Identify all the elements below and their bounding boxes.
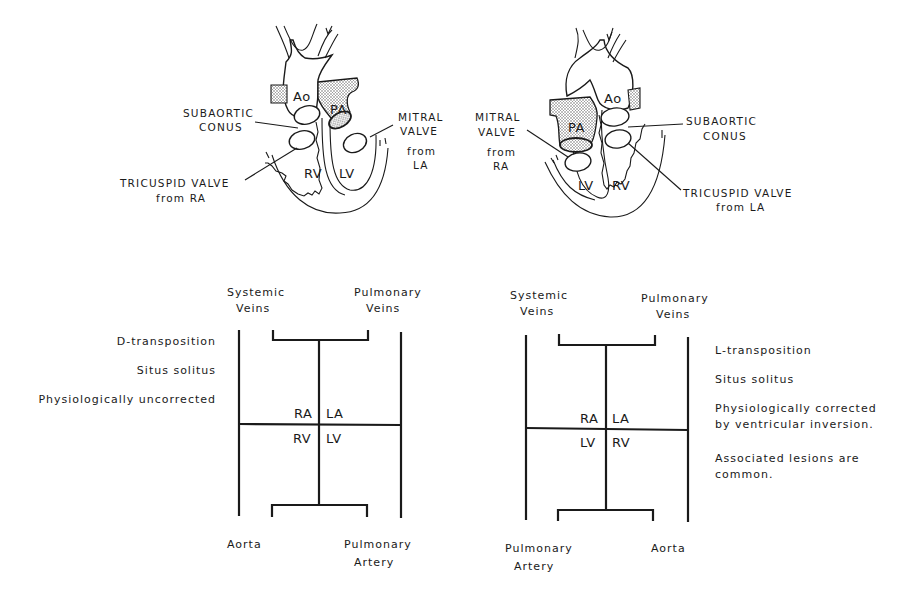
left-subaortic-label: SUBAORTIC [183,107,254,119]
right-pulmonary-artery-label: Pulmonary [505,542,573,555]
right-rv-label: RV [612,178,630,193]
left-mitral-label: MITRAL [398,111,444,123]
left-pulmonary-label: Pulmonary [354,286,422,299]
right-rv-label: RV [612,435,630,450]
left-lv-label: LV [339,166,355,181]
right-subaortic-label: SUBAORTIC [686,115,757,127]
left-from-ra-label: from RA [156,192,206,204]
left-la-label: LA [413,159,429,171]
left-ao-label: Ao [293,89,311,104]
right-la-label: LA [612,411,629,426]
right-pulmonary-label: Pulmonary [641,292,709,305]
left-tricuspid-label: TRICUSPID VALVE [119,177,230,189]
left-la-label: LA [326,406,343,421]
right-note-lesions: Associated lesions are [715,452,859,465]
right-aorta-label: Aorta [651,542,686,555]
right-note-common: common. [715,468,773,481]
left-valve-label: VALVE [400,125,438,137]
right-valve-label: VALVE [478,126,516,138]
left-aorta-label: Aorta [227,538,262,551]
left-conus-label: CONUS [199,121,243,133]
right-ao-label: Ao [604,91,622,106]
right-lv-label: LV [580,435,596,450]
left-ra-label: RA [294,406,312,421]
right-note-situs: Situs solitus [715,373,794,386]
left-systemic-veins-label: Veins [236,302,270,315]
right-pa-label: PA [568,120,585,135]
right-ra-label: RA [580,411,598,426]
right-note-transposition: L-transposition [715,344,812,357]
right-note-inversion: by ventricular inversion. [715,418,874,431]
right-pulmonary-veins-label: Veins [656,308,690,321]
right-heart-drawing: Ao PA LV RV SUBAORTIC CONUS MITRAL VALVE… [475,28,793,217]
left-from-label: from [407,145,436,157]
left-rv-label: RV [293,431,311,446]
left-artery-label: Artery [354,556,394,569]
right-systemic-label: Systemic [510,289,568,302]
right-from-la-label: from LA [716,201,765,213]
left-heart-drawing: Ao PA RV LV SUBAORTIC CONUS MITRAL VALVE… [119,24,444,213]
left-lv-label: LV [326,431,342,446]
right-from-label: from [487,146,516,158]
right-tricuspid-label: TRICUSPID VALVE [682,187,793,199]
left-pulmonary-artery-label: Pulmonary [344,538,412,551]
left-note-transposition: D-transposition [117,335,216,348]
left-pulmonary-veins-label: Veins [366,302,400,315]
right-mitral-label: MITRAL [475,111,521,123]
left-systemic-label: Systemic [227,286,285,299]
left-note-physiology: Physiologically uncorrected [38,393,216,406]
left-note-situs: Situs solitus [137,364,216,377]
right-lv-label: LV [578,178,594,193]
transposition-diagram: Ao PA RV LV SUBAORTIC CONUS MITRAL VALVE… [0,0,906,592]
right-conus-label: CONUS [703,130,747,142]
right-schematic: Systemic Veins Pulmonary Veins RA LA LV … [505,289,877,573]
right-systemic-veins-label: Veins [520,305,554,318]
left-schematic: Systemic Veins Pulmonary Veins RA LA RV … [38,286,421,569]
left-rv-label: RV [304,166,322,181]
right-artery-label: Artery [514,560,554,573]
right-note-physiology: Physiologically corrected [715,402,877,415]
right-ra-label: RA [493,160,509,172]
left-pa-label: PA [330,102,347,117]
